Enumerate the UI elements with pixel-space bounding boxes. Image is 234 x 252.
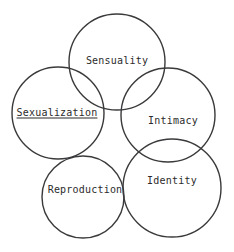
venn-diagram: SensualitySexualizationIntimacyReproduct…: [0, 0, 234, 252]
circle-label-sexualization: Sexualization: [17, 107, 98, 118]
circle-label-identity: Identity: [147, 175, 197, 186]
circle-label-sensuality: Sensuality: [86, 55, 148, 66]
circle-reproduction: [42, 156, 124, 238]
circle-label-intimacy: Intimacy: [148, 115, 198, 126]
circle-label-reproduction: Reproduction: [48, 184, 123, 195]
venn-circles-svg: [0, 0, 234, 252]
circle-identity: [123, 139, 221, 237]
